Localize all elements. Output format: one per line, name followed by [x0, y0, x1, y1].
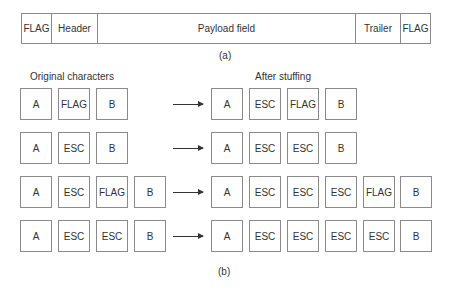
stuffed-char-box: ESC: [287, 132, 319, 164]
stuffed-char-box: FLAG: [363, 176, 395, 208]
stuffed-char-box: ESC: [249, 220, 281, 252]
orig-char-box: B: [134, 220, 166, 252]
stuffed-char-box: ESC: [325, 176, 357, 208]
orig-char-box: B: [96, 88, 128, 120]
frame-format: FLAG Header Payload field Trailer FLAG: [21, 13, 431, 44]
arrow-right-icon: [173, 104, 203, 105]
stuffed-char-box: ESC: [249, 176, 281, 208]
frame-flag-end: FLAG: [401, 14, 430, 43]
caption-b: (b): [218, 266, 230, 277]
stuffed-char-box: B: [325, 132, 357, 164]
frame-trailer: Trailer: [356, 14, 401, 43]
caption-a: (a): [219, 50, 231, 61]
orig-char-box: FLAG: [58, 88, 90, 120]
stuffed-char-box: B: [325, 88, 357, 120]
frame-payload: Payload field: [98, 14, 356, 43]
orig-char-box: A: [20, 88, 52, 120]
frame-header: Header: [52, 14, 98, 43]
stuffed-char-box: FLAG: [287, 88, 319, 120]
stuffed-char-box: ESC: [325, 220, 357, 252]
orig-char-box: ESC: [58, 132, 90, 164]
orig-char-box: ESC: [58, 220, 90, 252]
orig-char-box: A: [20, 176, 52, 208]
orig-char-box: ESC: [58, 176, 90, 208]
arrow-right-icon: [173, 192, 203, 193]
orig-char-box: FLAG: [96, 176, 128, 208]
orig-char-box: A: [20, 220, 52, 252]
frame-flag-start: FLAG: [22, 14, 52, 43]
stuffed-char-box: ESC: [287, 220, 319, 252]
after-stuffing-label: After stuffing: [255, 71, 311, 82]
stuffed-char-box: ESC: [287, 176, 319, 208]
arrow-right-icon: [173, 236, 203, 237]
orig-char-box: A: [20, 132, 52, 164]
arrow-right-icon: [173, 148, 203, 149]
stuffed-char-box: B: [400, 220, 432, 252]
stuffed-char-box: ESC: [249, 132, 281, 164]
orig-char-box: ESC: [96, 220, 128, 252]
stuffed-char-box: A: [211, 88, 243, 120]
stuffed-char-box: ESC: [249, 88, 281, 120]
orig-char-box: B: [134, 176, 166, 208]
stuffed-char-box: B: [400, 176, 432, 208]
stuffed-char-box: ESC: [363, 220, 395, 252]
stuffed-char-box: A: [211, 176, 243, 208]
original-characters-label: Original characters: [30, 71, 114, 82]
orig-char-box: B: [96, 132, 128, 164]
stuffed-char-box: A: [211, 132, 243, 164]
stuffed-char-box: A: [211, 220, 243, 252]
